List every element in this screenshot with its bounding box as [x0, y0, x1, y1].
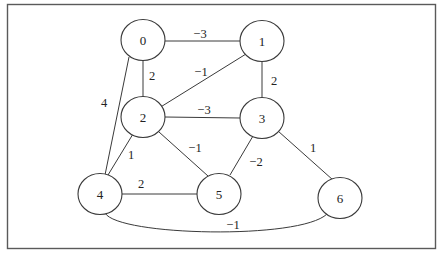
node-label: 4 — [97, 187, 104, 202]
weight-4-6: −1 — [226, 218, 239, 232]
weight-1-3: 2 — [271, 74, 277, 88]
node-label: 3 — [259, 111, 266, 126]
weight-2-4: 1 — [128, 148, 134, 162]
node-6: 6 — [318, 178, 362, 219]
node-label: 0 — [140, 33, 147, 48]
node-4: 4 — [78, 174, 122, 215]
weight-3-6: 1 — [310, 141, 316, 155]
node-0: 0 — [121, 20, 165, 61]
node-label: 6 — [337, 191, 344, 206]
node-label: 5 — [216, 187, 223, 202]
graph-figure: −3 2 4 −1 2 −3 1 −1 −2 1 2 −1 0 1 2 3 — [0, 0, 438, 253]
weight-0-4: 4 — [101, 96, 108, 110]
weight-1-2: −1 — [194, 65, 207, 79]
weight-2-5: −1 — [188, 141, 201, 155]
node-2: 2 — [121, 97, 165, 138]
node-label: 1 — [259, 34, 266, 49]
weight-2-3: −3 — [197, 103, 210, 117]
weight-3-5: −2 — [249, 155, 262, 169]
weight-0-2: 2 — [149, 69, 155, 83]
weight-4-5: 2 — [138, 177, 144, 191]
weight-0-1: −3 — [193, 27, 206, 41]
node-3: 3 — [240, 98, 284, 139]
node-label: 2 — [140, 110, 147, 125]
node-5: 5 — [197, 174, 241, 215]
node-1: 1 — [240, 21, 284, 62]
